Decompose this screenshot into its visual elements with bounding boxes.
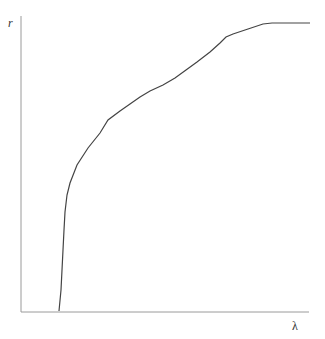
x-axis-label: λ [292,319,298,333]
chart: r λ [0,0,325,339]
y-axis-label: r [8,16,13,30]
data-curve [59,23,310,311]
